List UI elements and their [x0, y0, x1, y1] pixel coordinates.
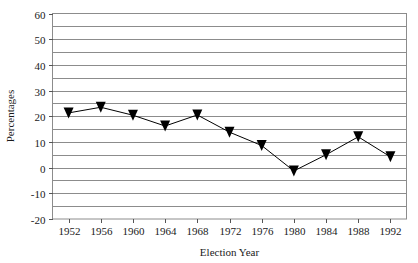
x-axis-tick-label: 1984 — [316, 225, 339, 237]
x-axis-tick-label: 1980 — [284, 225, 307, 237]
x-axis-tick-label: 1960 — [123, 225, 146, 237]
x-axis-tick-label: 1952 — [59, 225, 81, 237]
y-axis-tick-label: 0 — [40, 163, 46, 175]
x-axis-tick-label: 1992 — [380, 225, 402, 237]
y-axis-tick-label: 10 — [35, 137, 47, 149]
y-axis-tick-label: 50 — [35, 34, 47, 46]
y-axis-tick-label: 20 — [35, 111, 47, 123]
x-axis-tick-label: 1964 — [155, 225, 178, 237]
x-axis-tick-label: 1976 — [252, 225, 275, 237]
x-axis-tick-labels: 1952195619601964196819721976198019841988… — [59, 225, 402, 237]
y-axis-tick-label: 60 — [35, 9, 47, 21]
line-chart: 6050403020100-10-20 19521956196019641968… — [0, 0, 418, 263]
x-axis-tick-label: 1968 — [187, 225, 210, 237]
y-axis-tick-label: 40 — [35, 60, 47, 72]
x-axis-tick-label: 1988 — [348, 225, 371, 237]
y-axis-tick-label: 30 — [35, 86, 47, 98]
y-axis-tick-label: -10 — [31, 188, 46, 200]
x-axis-tick-label: 1956 — [91, 225, 114, 237]
y-axis-title: Percentages — [4, 90, 16, 143]
chart-container: 6050403020100-10-20 19521956196019641968… — [0, 0, 418, 263]
x-axis-tick-label: 1972 — [220, 225, 242, 237]
x-axis-title: Election Year — [200, 246, 260, 258]
y-axis-tick-label: -20 — [31, 214, 46, 226]
